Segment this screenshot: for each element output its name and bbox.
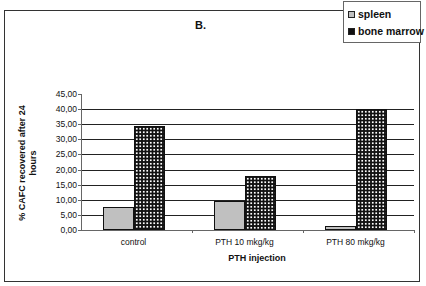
y-tick: [78, 94, 82, 95]
legend: spleen bone marrow: [343, 1, 421, 43]
y-tick-label: 40,00: [37, 104, 77, 114]
y-tick-label: 20,00: [37, 165, 77, 175]
x-tick-label: control: [84, 237, 184, 247]
x-tick-label: PTH 10 mkg/kg: [195, 237, 295, 247]
y-tick: [78, 200, 82, 201]
y-tick: [78, 230, 82, 231]
legend-label: bone marrow: [358, 25, 424, 37]
bar-bone-marrow: [134, 126, 165, 230]
y-axis: [81, 94, 82, 231]
bar-spleen: [214, 201, 245, 230]
y-tick-label: 25,00: [37, 149, 77, 159]
bar-bone-marrow: [356, 109, 387, 230]
y-tick: [78, 154, 82, 155]
y-tick: [78, 215, 82, 216]
y-tick-label: 5,00: [37, 210, 77, 220]
x-tick: [414, 230, 415, 233]
y-tick-label: 35,00: [37, 119, 77, 129]
legend-item-bone-marrow: bone marrow: [348, 25, 424, 37]
bar-spleen: [103, 207, 134, 230]
y-tick: [78, 139, 82, 140]
y-tick: [78, 170, 82, 171]
bar-bone-marrow: [245, 176, 276, 230]
x-tick: [303, 230, 304, 233]
y-tick-label: 0,00: [37, 225, 77, 235]
x-tick-label: PTH 80 mkg/kg: [306, 237, 406, 247]
plot-area: [81, 94, 414, 230]
x-tick: [192, 230, 193, 233]
y-tick-label: 30,00: [37, 134, 77, 144]
x-axis: [81, 230, 414, 231]
y-axis-title: % CAFC recovered after 24 hours: [17, 93, 39, 233]
legend-label: spleen: [358, 8, 391, 20]
spleen-swatch-icon: [348, 11, 355, 18]
y-tick-label: 15,00: [37, 180, 77, 190]
y-tick-label: 45,00: [37, 89, 77, 99]
y-tick: [78, 109, 82, 110]
chart-title: B.: [195, 19, 206, 31]
y-tick: [78, 124, 82, 125]
x-axis-title: PTH injection: [217, 253, 297, 263]
legend-item-spleen: spleen: [348, 8, 391, 20]
bone-marrow-swatch-icon: [348, 28, 355, 35]
y-tick: [78, 185, 82, 186]
y-tick-label: 10,00: [37, 195, 77, 205]
